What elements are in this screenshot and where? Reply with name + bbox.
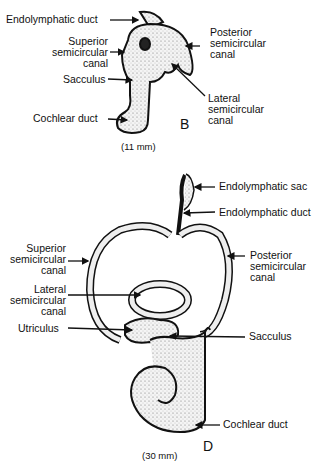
panel-letter-b: B	[180, 119, 189, 130]
label-d-utriculus: Utriculus	[18, 323, 59, 334]
label-b-endolymphatic-duct: Endolymphatic duct	[6, 14, 98, 25]
label-b-superior-canal: Superior semicircular canal	[30, 36, 108, 69]
scale-b: (11 mm)	[121, 141, 156, 152]
label-b-lateral-canal: Lateral semicircular canal	[208, 93, 264, 126]
panel-letter-d: D	[203, 441, 213, 452]
label-d-sacculus: Sacculus	[249, 331, 292, 342]
label-d-endolymphatic-duct: Endolymphatic duct	[219, 207, 311, 218]
label-d-endolymphatic-sac: Endolymphatic sac	[219, 181, 307, 192]
label-d-lateral-canal: Lateral semicircular canal	[0, 284, 66, 317]
label-b-cochlear-duct: Cochlear duct	[33, 113, 98, 124]
label-d-superior-canal: Superior semicircular canal	[0, 243, 66, 276]
label-b-posterior-canal: Posterior semicircular canal	[210, 27, 266, 60]
label-b-sacculus: Sacculus	[63, 74, 106, 85]
label-d-cochlear-duct: Cochlear duct	[223, 419, 288, 430]
inner-ear-diagram	[0, 0, 325, 461]
scale-d: (30 mm)	[142, 450, 177, 461]
label-d-posterior-canal: Posterior semicircular canal	[250, 250, 306, 283]
